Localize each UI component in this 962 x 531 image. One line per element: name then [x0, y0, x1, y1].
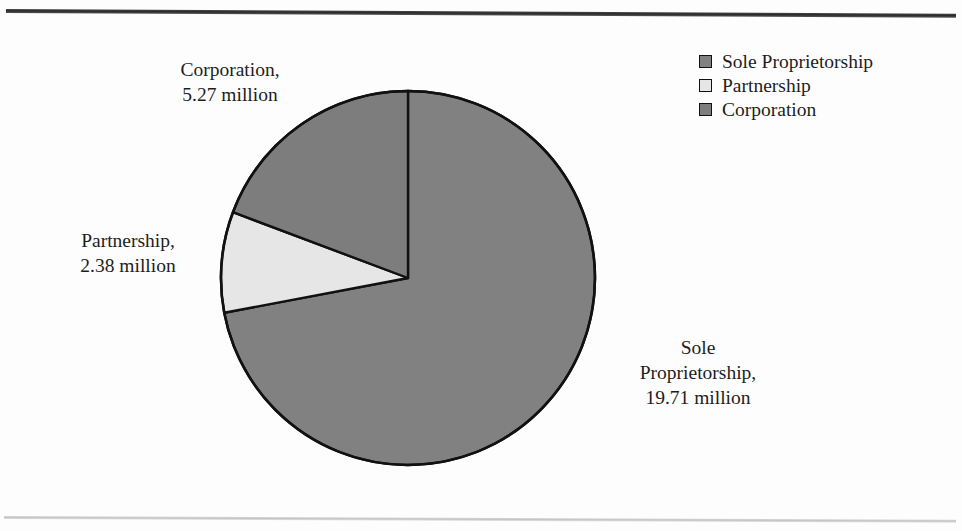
legend-item-label: Corporation: [722, 99, 816, 120]
legend-item-partnership[interactable]: Partnership: [699, 74, 949, 97]
bottom-horizontal-rule: [4, 516, 956, 523]
legend-swatch-icon: [699, 79, 712, 92]
legend-swatch-icon: [699, 103, 712, 116]
figure-canvas: Sole Proprietorship Partnership Corporat…: [0, 0, 962, 531]
legend-item-sole-proprietorship[interactable]: Sole Proprietorship: [699, 50, 949, 73]
legend-item-label: Partnership: [722, 75, 811, 96]
legend-item-corporation[interactable]: Corporation: [699, 98, 949, 121]
top-horizontal-rule: [6, 9, 956, 18]
legend-item-label: Sole Proprietorship: [722, 51, 873, 72]
page-title-fragment: [0, 0, 962, 8]
pie-chart-svg: [218, 89, 598, 469]
legend-swatch-icon: [699, 55, 712, 68]
pie-slices: [221, 91, 595, 465]
slice-label-partnership: Partnership, 2.38 million: [28, 228, 228, 278]
legend: Sole Proprietorship Partnership Corporat…: [699, 50, 949, 122]
slice-label-sole-proprietorship: Sole Proprietorship, 19.71 million: [588, 335, 808, 410]
slice-label-corporation: Corporation, 5.27 million: [120, 57, 340, 107]
pie-chart: [218, 89, 598, 469]
